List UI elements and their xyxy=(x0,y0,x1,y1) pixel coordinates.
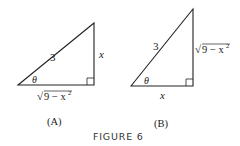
right-angle-marker-b xyxy=(186,79,193,86)
triangle-a-shape xyxy=(18,23,94,85)
angle-label-b: θ xyxy=(144,75,149,86)
adjacent-label-b: x xyxy=(159,89,165,101)
adjacent-label-a: √ 9 − x 2 xyxy=(37,89,72,102)
panel-label-a: (A) xyxy=(47,116,62,128)
angle-label-a: θ xyxy=(32,74,37,85)
figure-canvas: 3 x θ √ 9 − x 2 (A) 3 θ x √ 9 − x 2 (B) … xyxy=(0,0,240,146)
hypotenuse-label-b: 3 xyxy=(153,40,159,52)
exponent: 2 xyxy=(226,42,229,49)
right-angle-marker-a xyxy=(87,78,94,85)
sqrt-icon: √ xyxy=(195,43,202,55)
figure-caption: FIGURE 6 xyxy=(93,131,144,142)
triangle-b: 3 θ x √ 9 − x 2 (B) xyxy=(131,9,230,130)
exponent: 2 xyxy=(68,89,71,96)
triangle-b-shape xyxy=(131,9,193,86)
panel-label-b: (B) xyxy=(154,118,169,130)
opposite-label-a: x xyxy=(98,48,104,60)
radicand: 9 − x xyxy=(202,44,224,55)
hypotenuse-label-a: 3 xyxy=(50,51,56,63)
opposite-label-b: √ 9 − x 2 xyxy=(195,42,230,55)
triangle-a: 3 x θ √ 9 − x 2 (A) xyxy=(18,23,104,128)
radicand: 9 − x xyxy=(44,91,66,102)
sqrt-icon: √ xyxy=(37,90,44,102)
